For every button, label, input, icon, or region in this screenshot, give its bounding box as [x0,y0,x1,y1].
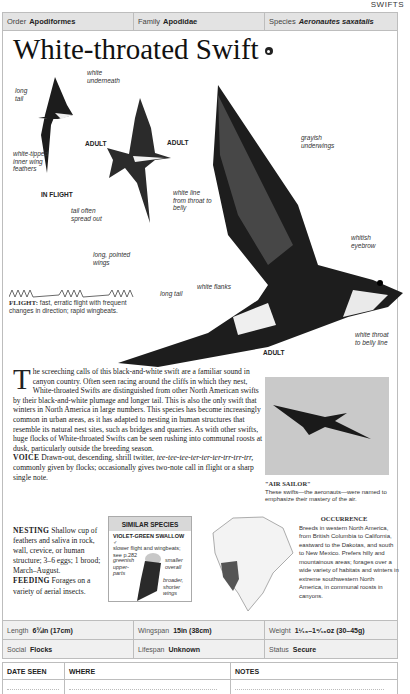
length-value: 6¾in (17cm) [32,627,72,634]
dropcap: T [13,368,31,390]
occurrence-title: OCCURRENCE [289,515,399,524]
stats-table: Length6¾in (17cm) Wingspan15in (38cm) We… [3,620,397,658]
air-sailor-photo [265,377,389,475]
order-label: Order [7,17,26,26]
annotation-whitish-eyebrow: whitish eyebrow [351,234,385,249]
nesting-label: NESTING [13,526,49,535]
status-value: Secure [293,646,316,653]
photo-caption: "AIR SAILOR" These swifts—the aeronauts—… [265,480,397,504]
annotation-grayish-underwings: grayish underwings [301,134,341,149]
order-value: Apodiformes [29,17,75,26]
social-label: Social [7,646,26,653]
species-page: Order Apodiformes Family Apodidae Specie… [2,12,398,659]
adult-small-label: ADULT [85,140,107,147]
similar-note-greenish: greenish upper-parts [113,557,135,577]
length-label: Length [7,627,28,634]
lifespan-cell: LifespanUnknown [134,640,265,658]
similar-species-box: SIMILAR SPECIES VIOLET-GREEN SWALLOW ♂ s… [108,516,192,602]
flight-label: FLIGHT: [9,299,38,307]
annotation-white-flanks: white flanks [197,283,247,291]
description-text: he screeching calls of this black-and-wh… [13,367,262,453]
flight-description: FLIGHT: fast, erratic flight with freque… [9,299,139,315]
log-col-where: WHERE [65,663,231,679]
lifespan-value: Unknown [168,646,200,653]
page-title: White-throated Swift [13,33,273,66]
weight-label: Weight [269,627,291,634]
nesting-feeding: NESTING Shallow cup of feathers and sali… [13,526,109,597]
stats-row-2: SocialFlocks LifespanUnknown StatusSecur… [3,639,397,658]
weight-value: 1¹⁄₁₆–1⁹⁄₁₆oz (30–45g) [295,627,365,634]
voice-call: tee-tee-tee-ter-ter-ter-trr-trr-trr, [157,453,253,462]
status-cell: StatusSecure [265,640,397,658]
log-row [3,680,397,694]
feeding-label: FEEDING [13,576,50,585]
species-cell: Species Aeronautes saxatalis [265,13,397,30]
taxonomy-bar: Order Apodiformes Family Apodidae Specie… [3,13,397,31]
sighting-log: DATE SEEN WHERE NOTES [2,662,398,694]
voice-label: VOICE [13,453,39,462]
social-cell: SocialFlocks [3,640,134,658]
annotation-white-throat: white throat to belly line [355,331,389,346]
log-where-field[interactable] [65,680,231,694]
similar-note-smaller: smaller overall [165,557,189,570]
stats-row-1: Length6¾in (17cm) Wingspan15in (38cm) We… [3,620,397,639]
social-value: Flocks [30,646,52,653]
swallow-illustration [133,551,165,601]
log-date-field[interactable] [3,680,65,694]
flight-pattern-icon [9,287,149,299]
order-cell: Order Apodiformes [3,13,134,30]
log-col-notes: NOTES [231,663,397,679]
annotation-white-tipped: white-tipped inner wing feathers [13,150,55,173]
species-value: Aeronautes saxatalis [299,17,374,26]
similar-species-name: VIOLET-GREEN SWALLOW ♂ [109,531,191,545]
weight-cell: Weight1¹⁄₁₆–1⁹⁄₁₆oz (30–45g) [265,621,397,639]
log-notes-field[interactable] [231,680,397,694]
wingspan-cell: Wingspan15in (38cm) [134,621,265,639]
annotation-tail-spread: tail often spread out [71,207,109,222]
title-text: White-throated Swift [13,33,259,65]
similar-species-header: SIMILAR SPECIES [109,517,191,531]
voice-text-2: commonly given by flocks; occasionally g… [13,463,254,482]
occurrence: OCCURRENCE Breeds in western North Ameri… [299,515,399,600]
photo-caption-text: These swifts—the aeronauts—were named to… [265,489,387,503]
lifespan-label: Lifespan [138,646,164,653]
occurrence-text: Breeds in western North America, from Br… [299,525,399,599]
wingspan-value: 15in (38cm) [173,627,212,634]
log-header: DATE SEEN WHERE NOTES [3,663,397,680]
status-label: Status [269,646,289,653]
annotation-white-underneath: white underneath [87,69,125,84]
voice-text: Drawn-out, descending, shrill twitter, [41,453,155,462]
description: The screeching calls of this black-and-w… [13,367,267,482]
section-tag: SWIFTS [371,0,404,9]
range-map [203,513,299,613]
annotation-long-tail: long tail [15,87,37,102]
family-value: Apodidae [163,17,197,26]
family-label: Family [138,17,160,26]
swift-photo-silhouette [265,377,389,475]
log-col-date: DATE SEEN [3,663,65,679]
photo-caption-title: "AIR SAILOR" [265,480,311,487]
swift-adult-main-illustration [118,85,410,370]
in-flight-label: IN FLIGHT [41,191,73,198]
family-cell: Family Apodidae [134,13,265,30]
audio-icon[interactable] [265,47,273,55]
annotation-long-tail-2: long tail [160,290,200,298]
species-label: Species [269,17,296,26]
length-cell: Length6¾in (17cm) [3,621,134,639]
similar-note-broader: broader, shorter wings [163,577,189,597]
adult-main-label: ADULT [263,349,285,356]
wingspan-label: Wingspan [138,627,169,634]
